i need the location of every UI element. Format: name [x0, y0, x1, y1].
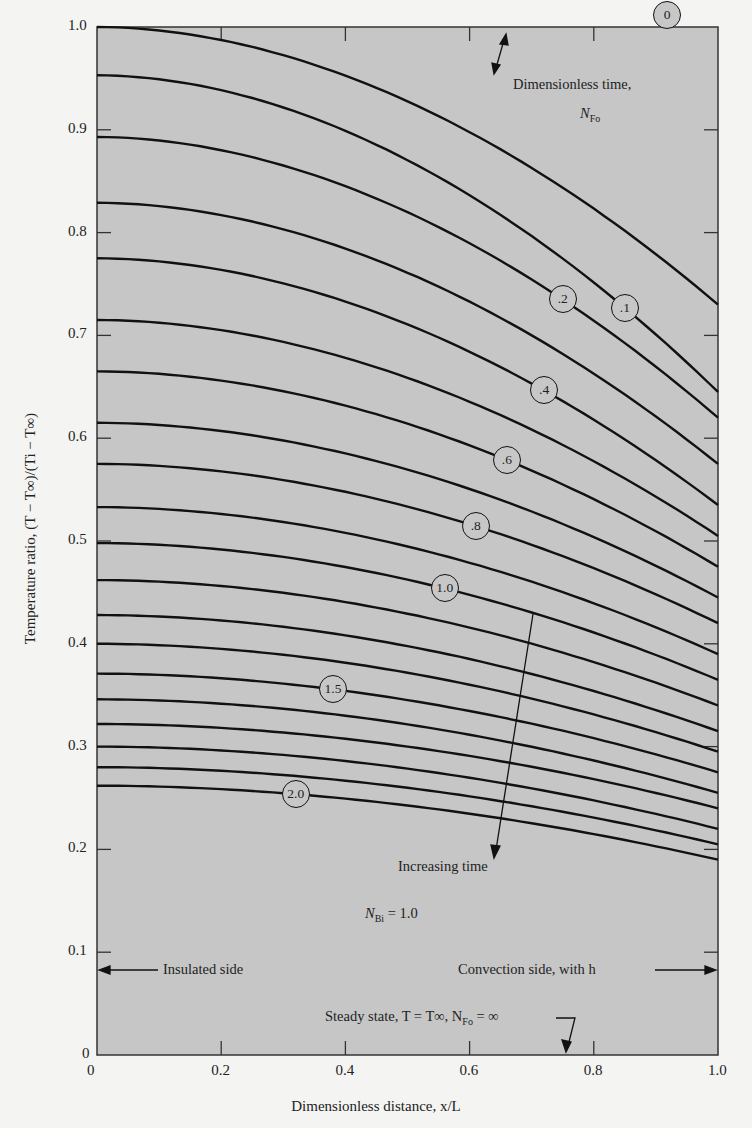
increasing-time-note: Increasing time	[398, 858, 488, 875]
x-tick-label: 0.2	[211, 1062, 230, 1079]
x-tick-label: 0.4	[335, 1062, 354, 1079]
curve-label-0.8: .8	[462, 512, 490, 540]
plot-area	[97, 27, 718, 1055]
curve-label-0.4: .4	[530, 376, 558, 404]
y-tick-label: 0.3	[68, 737, 87, 754]
steady-state-label: Steady state, T = T∞, NFo = ∞	[325, 1008, 499, 1027]
curve-label-0.6: .6	[493, 446, 521, 474]
y-tick-label: 0.4	[68, 634, 87, 651]
y-tick-label: 0.7	[68, 325, 87, 342]
y-tick-label: 0.1	[68, 942, 87, 959]
curve-label-1.5: 1.5	[319, 675, 347, 703]
curve-label-0.1: .1	[611, 294, 639, 322]
y-tick-label: 0.6	[68, 428, 87, 445]
curve-label-0.2: .2	[549, 285, 577, 313]
x-tick-label: 0.6	[460, 1062, 479, 1079]
dimensionless-time-note: Dimensionless time,	[513, 76, 631, 93]
insulated-side-label: Insulated side	[163, 961, 243, 978]
y-tick-label: 0.9	[68, 120, 87, 137]
y-tick-label: 0	[82, 1045, 90, 1062]
curve-label-1.0: 1.0	[431, 574, 459, 602]
chart-canvas	[0, 0, 752, 1128]
curve-label-0: 0	[653, 1, 681, 29]
biot-number-label: NBi = 1.0	[365, 905, 418, 924]
x-tick-label: 0.8	[584, 1062, 603, 1079]
y-tick-label: 0.5	[68, 531, 87, 548]
y-axis-label: Temperature ratio, (T − T∞)/(Ti − T∞)	[22, 349, 39, 709]
y-tick-label: 0.2	[68, 839, 87, 856]
curve-label-2.0: 2.0	[282, 780, 310, 808]
y-tick-label: 1.0	[68, 17, 87, 34]
x-axis-label: Dimensionless distance, x/L	[0, 1098, 752, 1115]
nfo-symbol: NFo	[580, 105, 600, 124]
convection-side-label: Convection side, with h	[458, 961, 596, 978]
x-tick-label: 0	[87, 1062, 95, 1079]
y-tick-label: 0.8	[68, 223, 87, 240]
x-tick-label: 1.0	[708, 1062, 727, 1079]
